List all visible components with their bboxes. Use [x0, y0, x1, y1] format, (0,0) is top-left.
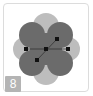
number-badge: 8	[5, 76, 21, 92]
